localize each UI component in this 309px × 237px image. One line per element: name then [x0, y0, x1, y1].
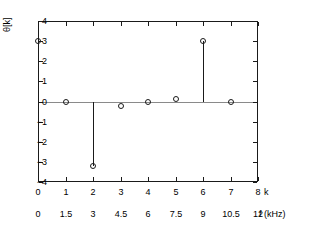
- data-stem: [93, 102, 94, 166]
- y-axis-tick-right: [253, 81, 257, 82]
- x-axis-tick: [231, 177, 232, 181]
- x-axis-tick-label: 5: [161, 188, 191, 197]
- data-point-marker: [63, 99, 69, 105]
- x-axis-tick: [176, 177, 177, 181]
- y-axis-tick-label: 1: [27, 77, 47, 86]
- x-axis-tick: [258, 177, 259, 181]
- x-axis-tick-top: [66, 22, 67, 26]
- data-point-marker: [90, 163, 96, 169]
- frequency-tick-label: 3: [78, 210, 108, 219]
- frequency-tick-label: 10.5: [216, 210, 246, 219]
- frequency-tick-label: 0: [23, 210, 53, 219]
- x-axis-tick-label: 7: [216, 188, 246, 197]
- y-axis-tick-right: [253, 61, 257, 62]
- x-axis-tick-top: [121, 22, 122, 26]
- frequency-tick-label: 9: [188, 210, 218, 219]
- frequency-tick-label: 12: [243, 210, 273, 219]
- data-point-marker: [35, 38, 41, 44]
- x-axis-tick: [203, 177, 204, 181]
- x-axis-tick-top: [231, 22, 232, 26]
- data-point-marker: [200, 38, 206, 44]
- x-axis-tick-label: 1: [51, 188, 81, 197]
- frequency-tick-label: 4.5: [106, 210, 136, 219]
- y-axis-tick-label: −4: [27, 178, 47, 187]
- x-axis-tick-label: 6: [188, 188, 218, 197]
- x-axis-tick-top: [203, 22, 204, 26]
- x-axis-tick-top: [93, 22, 94, 26]
- frequency-tick-label: 7.5: [161, 210, 191, 219]
- frequency-tick-label: 6: [133, 210, 163, 219]
- x-axis-tick-label: 8: [243, 188, 273, 197]
- y-axis-tick-label: 0: [27, 98, 47, 107]
- data-point-marker: [228, 99, 234, 105]
- chart-root: θ[k] k f (kHz) 01234567801.534.567.5910.…: [0, 0, 309, 237]
- frequency-tick-label: 1.5: [51, 210, 81, 219]
- data-point-marker: [173, 96, 179, 102]
- y-axis-tick-right: [253, 142, 257, 143]
- x-axis-tick-top: [148, 22, 149, 26]
- y-axis-tick-right: [253, 162, 257, 163]
- x-axis-tick-label: 3: [106, 188, 136, 197]
- x-axis-tick-top: [176, 22, 177, 26]
- y-axis-tick-label: −2: [27, 138, 47, 147]
- x-axis-tick: [148, 177, 149, 181]
- x-axis-tick: [121, 177, 122, 181]
- x-axis-tick-top: [258, 22, 259, 26]
- y-axis-tick-right: [253, 102, 257, 103]
- y-axis-title: θ[k]: [2, 17, 12, 32]
- data-point-marker: [145, 99, 151, 105]
- data-point-marker: [118, 103, 124, 109]
- x-axis-tick: [93, 177, 94, 181]
- y-axis-tick-label: 4: [27, 17, 47, 26]
- y-axis-tick-label: −3: [27, 158, 47, 167]
- data-stem: [38, 41, 39, 101]
- x-axis-tick-label: 4: [133, 188, 163, 197]
- x-axis-tick-label: 2: [78, 188, 108, 197]
- y-axis-tick-right: [253, 122, 257, 123]
- y-axis-tick-right: [253, 182, 257, 183]
- y-axis-tick-right: [253, 21, 257, 22]
- x-axis-tick-label: 0: [23, 188, 53, 197]
- data-stem: [203, 41, 204, 101]
- y-axis-tick-label: 2: [27, 57, 47, 66]
- y-axis-tick-label: −1: [27, 118, 47, 127]
- y-axis-tick-right: [253, 41, 257, 42]
- x-axis-tick: [66, 177, 67, 181]
